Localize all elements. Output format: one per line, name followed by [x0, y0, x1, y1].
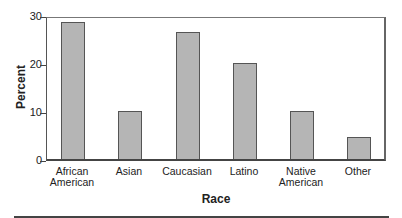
x-tick-label: Other [323, 166, 393, 177]
y-tick-label: 0 [22, 154, 42, 166]
bar [118, 111, 142, 159]
x-axis-title: Race [0, 192, 402, 206]
bar [176, 32, 200, 159]
bar [347, 137, 371, 159]
bar [61, 22, 85, 159]
plot-area [46, 17, 386, 161]
bar [233, 63, 257, 159]
y-tick [40, 161, 46, 162]
bottom-rule [14, 216, 389, 218]
y-tick-label: 20 [22, 58, 42, 70]
bar [290, 111, 314, 159]
y-tick-label: 30 [22, 10, 42, 22]
y-tick-label: 10 [22, 106, 42, 118]
